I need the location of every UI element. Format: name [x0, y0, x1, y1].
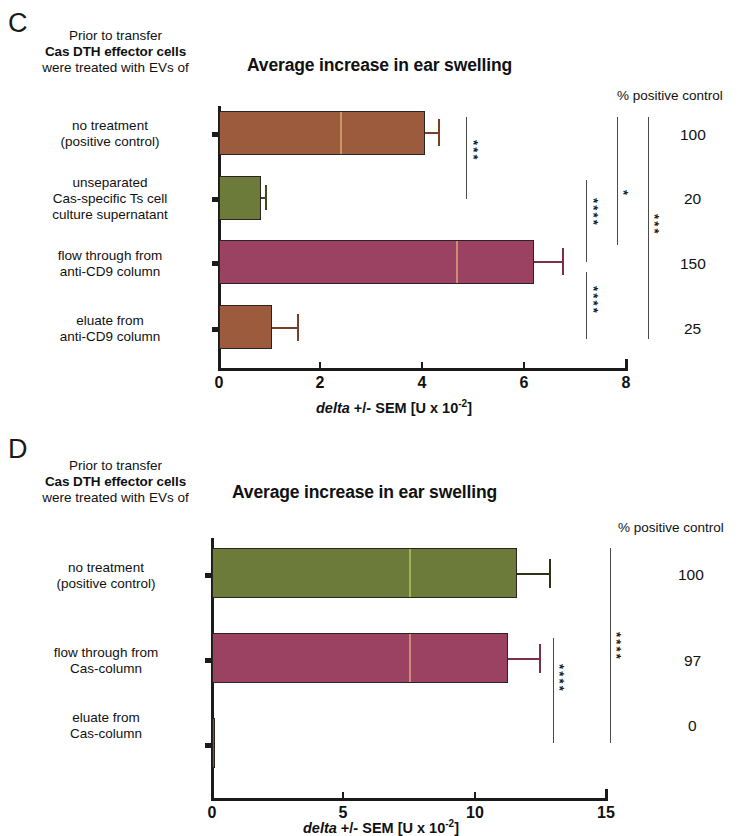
xlabel-mid: +/- SEM [U x 10	[337, 820, 445, 836]
panel-d-pct-value-1: 100	[678, 566, 704, 584]
panel-c-x-axis-label: delta +/- SEM [U x 10-2]	[316, 398, 472, 416]
panel-d-x-tick-5	[342, 792, 344, 799]
cat-line: eluate from	[10, 313, 210, 329]
panel-d-x-tick-label-0: 0	[208, 804, 217, 822]
errorbar-cap-2	[265, 185, 267, 210]
panel-c-sig-stars-4: ***	[648, 214, 661, 236]
panel-c-chart-title: Average increase in ear swelling	[247, 55, 512, 76]
bar-flow-through-anti-cd9	[219, 240, 534, 284]
panel-d-sig-stars-2: ****	[553, 664, 566, 693]
xlabel-sup: -2	[458, 398, 467, 409]
panel-c-x-tick-0	[218, 362, 220, 369]
panel-c-pct-value-4: 25	[684, 320, 701, 338]
cat-line: no treatment	[10, 118, 210, 134]
errorbar-line-3	[534, 261, 564, 263]
errorbar-cap-d1	[549, 559, 551, 588]
header-line-3: were treated with EVs of	[8, 490, 223, 506]
bar-sheen	[409, 634, 411, 682]
panel-c-sig-stars-3: *	[617, 190, 630, 197]
header-line-1: Prior to transfer	[8, 28, 223, 44]
panel-c-x-tick-label-8: 8	[622, 374, 631, 392]
panel-c-x-tick-4	[421, 362, 423, 369]
panel-d-plot-area: 0 5 10 15	[211, 538, 631, 813]
panel-d-header: Prior to transfer Cas DTH effector cells…	[8, 458, 223, 506]
panel-c-sig-stars-1: ***	[467, 140, 480, 162]
bar-no-treatment-d	[212, 548, 517, 598]
panel-c-plot-area: 0 2 4 6 8	[218, 106, 638, 376]
panel-c: C Prior to transfer Cas DTH effector cel…	[0, 0, 744, 420]
cat-line: (positive control)	[10, 134, 210, 150]
bar-eluate-anti-cd9	[219, 305, 272, 349]
xlabel-sup: -2	[445, 818, 454, 829]
panel-c-x-axis	[218, 368, 628, 371]
panel-c-category-label-3: flow through from anti-CD9 column	[10, 248, 210, 280]
panel-c-x-tick-6	[523, 362, 525, 369]
panel-d-pct-value-3: 0	[688, 717, 697, 735]
panel-c-pct-value-2: 20	[684, 190, 701, 208]
cat-line: Cas-column	[6, 726, 206, 742]
panel-c-category-label-1: no treatment (positive control)	[10, 118, 210, 150]
cat-line: (positive control)	[6, 576, 206, 592]
xlabel-mid: +/- SEM [U x 10	[350, 400, 458, 416]
bar-eluate-cas-column	[212, 718, 215, 768]
panel-d-category-label-3: eluate from Cas-column	[6, 710, 206, 742]
cat-line: culture supernatant	[10, 207, 210, 223]
panel-c-pct-value-3: 150	[680, 255, 706, 273]
panel-d-category-label-1: no treatment (positive control)	[6, 560, 206, 592]
xlabel-suffix: ]	[454, 820, 459, 836]
panel-c-sig-stars-2: ****	[587, 198, 600, 227]
panel-c-category-label-2: unseparated Cas-specific Ts cell culture…	[10, 175, 210, 222]
panel-c-sig-stars-5: ****	[587, 286, 600, 315]
panel-d-x-axis-label: delta +/- SEM [U x 10-2]	[303, 818, 459, 836]
cat-line: Cas-column	[6, 661, 206, 677]
panel-d-x-tick-10	[474, 792, 476, 799]
cat-line: Cas-specific Ts cell	[10, 191, 210, 207]
xlabel-delta: delta	[316, 400, 350, 416]
cat-line: flow through from	[6, 645, 206, 661]
panel-d-pct-value-2: 97	[684, 652, 701, 670]
panel-c-header: Prior to transfer Cas DTH effector cells…	[8, 28, 223, 76]
panel-d-x-tick-label-10: 10	[466, 804, 484, 822]
panel-c-pct-value-1: 100	[680, 126, 706, 144]
panel-c-x-tick-label-4: 4	[418, 374, 427, 392]
header-line-2: Cas DTH effector cells	[8, 474, 223, 490]
errorbar-cap-3	[562, 248, 564, 275]
panel-d-category-label-2: flow through from Cas-column	[6, 645, 206, 677]
bar-sheen	[456, 241, 458, 283]
panel-d-x-axis	[211, 798, 608, 801]
panel-d-percent-header: % positive control	[618, 520, 724, 535]
errorbar-cap-1	[438, 119, 440, 146]
panel-d: D Prior to transfer Cas DTH effector cel…	[0, 420, 744, 835]
cat-line: anti-CD9 column	[10, 264, 210, 280]
panel-c-sig-line-3	[617, 117, 618, 245]
cat-line: no treatment	[6, 560, 206, 576]
cat-line: anti-CD9 column	[10, 329, 210, 345]
panel-c-x-tick-label-6: 6	[520, 374, 529, 392]
header-line-3: were treated with EVs of	[8, 60, 223, 76]
header-line-1: Prior to transfer	[8, 458, 223, 474]
panel-d-chart-title: Average increase in ear swelling	[232, 482, 497, 503]
cat-line: flow through from	[10, 248, 210, 264]
panel-c-percent-header: % positive control	[617, 88, 723, 103]
panel-c-x-tick-2	[319, 362, 321, 369]
bar-unseparated-supernatant	[219, 176, 261, 220]
cat-line: eluate from	[6, 710, 206, 726]
bar-sheen	[409, 549, 411, 597]
bar-sheen	[340, 112, 342, 154]
errorbar-line-4	[272, 327, 299, 329]
panel-c-x-tick-label-2: 2	[316, 374, 325, 392]
bar-flow-through-cas-column	[212, 633, 508, 683]
panel-d-x-tick-0	[211, 792, 213, 799]
errorbar-line-d1	[517, 573, 551, 575]
header-line-2: Cas DTH effector cells	[8, 44, 223, 60]
errorbar-cap-d2	[539, 644, 541, 673]
panel-d-x-tick-15	[605, 792, 607, 799]
errorbar-line-d2	[508, 658, 541, 660]
cat-line: unseparated	[10, 175, 210, 191]
panel-c-x-tick-label-0: 0	[215, 374, 224, 392]
xlabel-delta: delta	[303, 820, 337, 836]
panel-d-x-tick-label-15: 15	[597, 804, 615, 822]
panel-d-sig-stars-1: ****	[610, 632, 623, 661]
bar-no-treatment	[219, 111, 425, 155]
panel-c-x-tick-8	[625, 362, 627, 369]
